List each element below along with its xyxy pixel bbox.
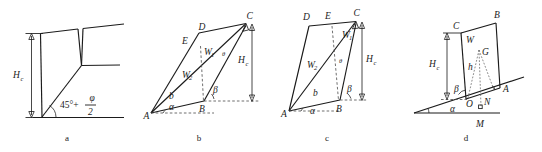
panel-a-caption: a [65, 133, 69, 143]
panel-c-label-W1-subscript: 1 [349, 34, 352, 41]
panel-c-label-E: E [324, 11, 331, 21]
panel-a-ledge-line [82, 65, 121, 66]
panel-b-label-beta: β [212, 85, 218, 95]
panel-b-edge-A-to-B [151, 101, 204, 113]
panel-d-right-angle-mark-N [479, 105, 483, 109]
panel-c-internal-dashed-divider [332, 26, 339, 100]
panel-a-crack-right-limb [82, 29, 84, 66]
panel-d-label-A: A [502, 84, 509, 94]
panel-c-label-beta: β [346, 84, 352, 94]
panel-c-beta-arc [348, 94, 352, 99]
panel-a-height-subscript: c [21, 75, 24, 82]
panel-d-height-subscript: c [437, 64, 440, 71]
panel-d-caption: d [464, 133, 469, 143]
panel-a-backfill-surface [83, 24, 124, 29]
panel-b-label-B: B [199, 104, 205, 114]
panel-d-label-M: M [475, 119, 485, 129]
panel-c-label-W2-subscript: 2 [314, 64, 318, 71]
panel-d-block-edge-B-to-A [496, 23, 500, 88]
panel-b-label-C: C [247, 11, 254, 21]
panel-a-crack-left-limb [78, 29, 82, 66]
panel-d-label-C: C [453, 21, 460, 31]
panel-c-label-C: C [354, 8, 361, 18]
panel-d-centroid-vertical-dashed [479, 50, 481, 106]
panel-d-label-O: O [466, 99, 473, 109]
panel-c-height-subscript: c [374, 59, 377, 66]
panel-d-label-h: h [468, 62, 473, 72]
figure-geotechnical-wedge-diagrams: H c 45°+ φ 2 a [0, 0, 542, 152]
panel-a-angle-numerator: φ [90, 93, 95, 103]
panel-c-caption: c [325, 133, 329, 143]
panel-b-label-theta: θ [222, 50, 226, 57]
panel-d-label-B: B [494, 10, 500, 20]
panel-a-wall-back-face [41, 34, 43, 118]
panel-a-base-angle-arc [50, 106, 57, 118]
panel-b-edge-A-to-D [151, 33, 199, 113]
figure-canvas: H c 45°+ φ 2 a [0, 0, 542, 152]
panel-c-label-D: D [302, 12, 310, 22]
panel-d-label-N: N [483, 97, 491, 107]
panel-a-angle-base-label: 45°+ [60, 100, 79, 110]
panel-d-alpha-arc [428, 108, 429, 113]
panel-c-label-B: B [336, 104, 342, 114]
panel-d-beta-arc [459, 90, 466, 95]
panel-b-label-b: b [169, 91, 174, 101]
panel-b-edge-A-to-C [151, 25, 245, 114]
panel-d-centroid-to-O-dashed [468, 50, 479, 98]
panel-c: A B C D E W 1 W 2 b α β θ H c c [280, 8, 377, 143]
panel-c-label-A: A [280, 109, 287, 119]
panel-b-caption: b [197, 133, 202, 143]
panel-d-label-beta: β [453, 84, 459, 94]
panel-b: A B C D E W 1 W 2 b α β θ H c b [143, 11, 260, 143]
panel-b-label-E: E [181, 36, 188, 46]
panel-d-label-W: W [466, 35, 475, 45]
panel-d-label-G: G [482, 47, 489, 57]
panel-a-angle-denominator: 2 [88, 107, 93, 117]
panel-b-height-subscript: c [246, 60, 249, 67]
panel-b-edge-D-to-C [199, 24, 246, 34]
panel-c-label-b: b [313, 88, 318, 98]
panel-b-label-W1-subscript: 1 [211, 51, 214, 58]
panel-b-label-D: D [198, 22, 206, 32]
panel-b-label-W2-subscript: 2 [189, 74, 193, 81]
panel-a-wall-top [41, 29, 79, 34]
panel-d: A B C G M N O W h α β H c d [414, 10, 524, 143]
panel-c-label-theta: θ [339, 57, 343, 64]
panel-c-edge-D-to-C [309, 22, 356, 27]
panel-b-label-A: A [143, 111, 150, 121]
panel-d-block-edge-C-to-B [461, 23, 496, 33]
panel-a: H c 45°+ φ 2 a [12, 24, 124, 143]
